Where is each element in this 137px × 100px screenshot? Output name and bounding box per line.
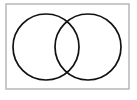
outer-frame-rect: [6, 4, 129, 89]
figure-canvas: [0, 0, 137, 100]
figure-container: Two tangent circles in a rectangular fra…: [0, 0, 137, 100]
